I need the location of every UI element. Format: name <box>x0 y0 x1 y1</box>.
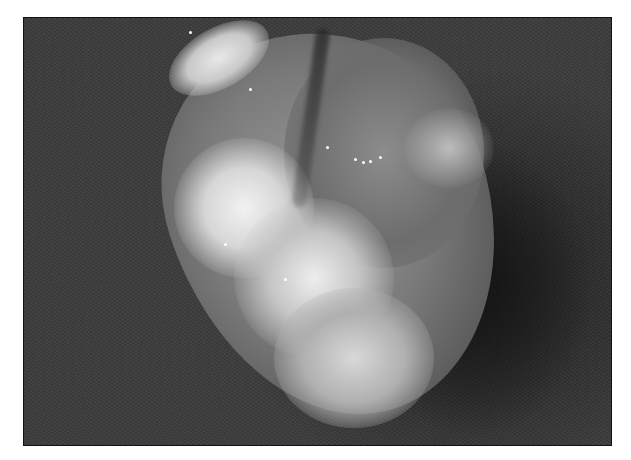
specimen-pale-patch <box>404 108 494 188</box>
specular-glint <box>369 160 372 163</box>
specular-glint <box>326 146 329 149</box>
specular-glint <box>284 278 287 281</box>
specular-glint <box>189 31 192 34</box>
specimen-photo <box>23 17 612 446</box>
specular-glint <box>379 156 382 159</box>
specimen-bright-region-lower <box>274 288 434 428</box>
specular-glint <box>362 161 365 164</box>
specular-glint <box>249 88 252 91</box>
specular-glint <box>354 158 357 161</box>
specular-glint <box>224 243 227 246</box>
